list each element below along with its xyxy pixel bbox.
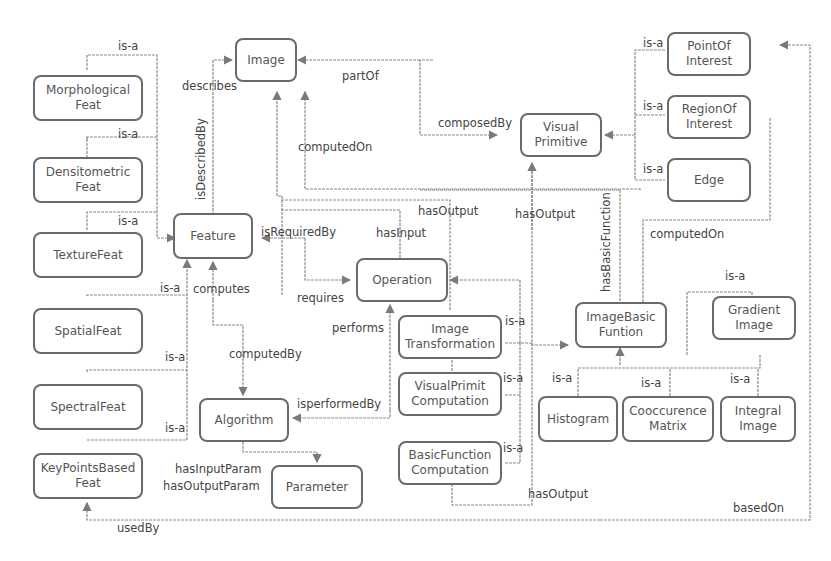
label-is-a: is-a xyxy=(503,372,523,385)
node-spectral-feat[interactable]: SpectralFeat xyxy=(33,384,143,430)
node-image-transformation[interactable]: Image Transformation xyxy=(398,315,502,359)
label-has-output: hasOutput xyxy=(418,205,478,218)
label-is-a: is-a xyxy=(160,282,180,295)
label-has-basic-function: hasBasicFunction xyxy=(600,192,613,292)
node-basic-function-computation[interactable]: BasicFunction Computation xyxy=(398,441,502,485)
label-has-output: hasOutput xyxy=(515,208,575,221)
label-is-a: is-a xyxy=(643,37,663,50)
node-densitometric-feat[interactable]: Densitometric Feat xyxy=(33,157,143,203)
label-is-a: is-a xyxy=(165,422,185,435)
label-is-performed-by: isperformedBy xyxy=(297,398,381,411)
label-is-a: is-a xyxy=(643,100,663,113)
node-image[interactable]: Image xyxy=(235,38,297,82)
label-is-a: is-a xyxy=(503,442,523,455)
label-computes: computes xyxy=(193,283,250,296)
label-describes: describes xyxy=(182,80,237,93)
label-is-required-by: isRequiredBy xyxy=(261,226,336,239)
label-computed-on: computedOn xyxy=(298,141,372,154)
label-is-a: is-a xyxy=(505,315,525,328)
label-part-of: partOf xyxy=(342,70,379,83)
label-has-input-param: hasInputParam xyxy=(175,463,262,476)
node-algorithm[interactable]: Algorithm xyxy=(199,398,289,442)
node-gradient-image[interactable]: Gradient Image xyxy=(712,296,796,340)
node-edge[interactable]: Edge xyxy=(667,158,751,202)
label-used-by: usedBy xyxy=(117,522,159,535)
label-is-a: is-a xyxy=(118,215,138,228)
node-cooccurence-matrix[interactable]: Cooccurence Matrix xyxy=(622,396,714,442)
label-is-a: is-a xyxy=(165,351,185,364)
node-texture-feat[interactable]: TextureFeat xyxy=(33,232,143,278)
node-point-of-interest[interactable]: PointOf Interest xyxy=(667,32,751,76)
node-operation[interactable]: Operation xyxy=(356,258,448,302)
node-histogram[interactable]: Histogram xyxy=(538,396,618,442)
label-is-a: is-a xyxy=(641,377,661,390)
node-region-of-interest[interactable]: RegionOf Interest xyxy=(667,95,751,139)
node-integral-image[interactable]: Integral Image xyxy=(720,396,796,442)
label-computed-on: computedOn xyxy=(650,228,724,241)
label-requires: requires xyxy=(297,292,344,305)
label-computed-by: computedBy xyxy=(229,348,302,361)
label-is-a: is-a xyxy=(730,373,750,386)
label-is-a: is-a xyxy=(118,40,138,53)
label-is-a: is-a xyxy=(725,270,745,283)
label-performs: performs xyxy=(332,322,384,335)
label-is-a: is-a xyxy=(118,128,138,141)
node-spatial-feat[interactable]: SpatialFeat xyxy=(33,308,143,354)
label-is-a: is-a xyxy=(643,163,663,176)
node-visual-primit-computation[interactable]: VisualPrimit Computation xyxy=(398,372,502,416)
label-has-output: hasOutput xyxy=(528,488,588,501)
node-feature[interactable]: Feature xyxy=(173,213,253,259)
label-has-output-param: hasOutputParam xyxy=(163,480,260,493)
node-parameter[interactable]: Parameter xyxy=(271,465,363,509)
label-has-input: hasInput xyxy=(376,227,426,240)
node-visual-primitive[interactable]: Visual Primitive xyxy=(520,113,602,157)
label-composed-by: composedBy xyxy=(438,117,512,130)
node-keypoints-based-feat[interactable]: KeyPointsBased Feat xyxy=(33,453,143,499)
node-image-basic-funtion[interactable]: ImageBasic Funtion xyxy=(575,302,667,348)
label-is-a: is-a xyxy=(552,372,572,385)
node-morphological-feat[interactable]: Morphological Feat xyxy=(33,75,143,121)
label-is-described-by: isDescribedBy xyxy=(195,118,208,200)
label-based-on: basedOn xyxy=(733,502,784,515)
